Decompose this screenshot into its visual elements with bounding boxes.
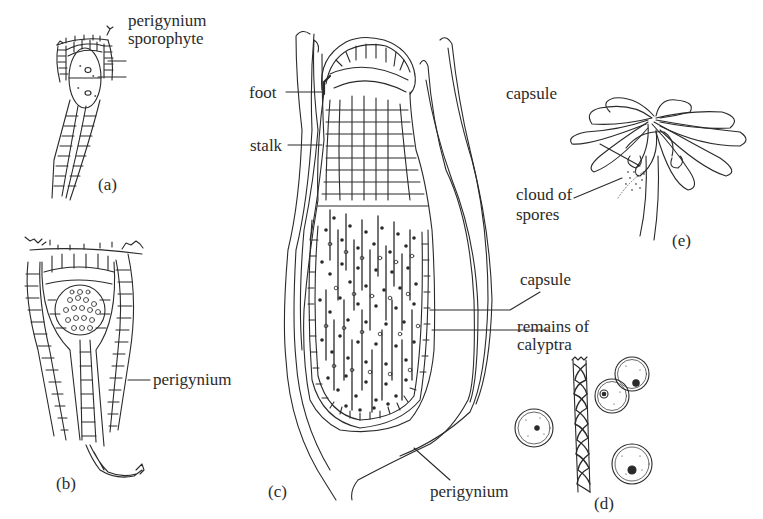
label-e-capsule: capsule (506, 85, 557, 103)
panel-e-drawing (571, 98, 746, 240)
label-a-perigynium: perigynium (128, 12, 206, 30)
caption-a: (a) (98, 176, 117, 194)
label-a-sporophyte: sporophyte (128, 30, 204, 48)
caption-b: (b) (56, 475, 76, 493)
botanical-figure: perigynium sporophyte (a) perigynium (b)… (0, 0, 763, 519)
panel-b-drawing (25, 237, 144, 477)
c-perigynium-leader (414, 448, 450, 480)
caption-e: (e) (672, 232, 691, 250)
figure-drawing (0, 0, 763, 519)
label-c-foot: foot (249, 84, 276, 102)
e-capsule-leader (600, 144, 640, 166)
label-c-calyptra-line1: remains of (517, 318, 589, 336)
label-e-spores-line1: cloud of (516, 186, 572, 204)
capsule-spores (318, 216, 418, 412)
label-c-perigynium: perigynium (430, 483, 508, 501)
e-spores-leader (574, 178, 622, 198)
panel-c-drawing (284, 31, 492, 500)
caption-d: (d) (594, 495, 614, 513)
label-c-capsule: capsule (520, 271, 571, 289)
panel-d-drawing (515, 357, 652, 492)
label-c-calyptra-line2: calyptra (517, 336, 572, 354)
panel-a-drawing (52, 26, 113, 200)
c-capsule-leader (430, 292, 540, 310)
label-b-perigynium: perigynium (153, 371, 231, 389)
label-c-stalk: stalk (250, 137, 282, 155)
caption-c: (c) (268, 483, 287, 501)
label-e-spores-line2: spores (516, 206, 559, 224)
cropped-title-text (0, 0, 300, 2)
